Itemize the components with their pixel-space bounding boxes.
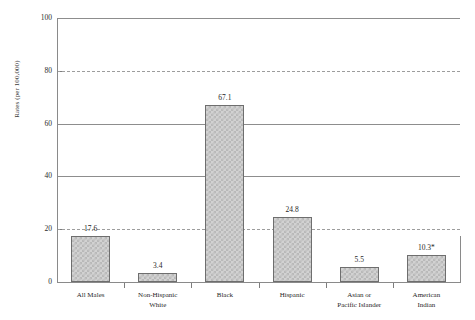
bar-value-label: 5.5 [340,255,379,264]
bar-value-label: 17.6 [71,224,110,233]
bar [340,267,379,282]
y-axis-tick-label: 40 [16,171,52,180]
category-label: Non-HispanicWhite [124,291,191,310]
bar-group: 24.8 [273,18,312,282]
x-axis-tick-mark [326,283,327,288]
chart-title [0,0,475,4]
bar-value-label: 10.3* [407,243,446,252]
x-axis-tick-mark [124,283,125,288]
bar [138,273,177,282]
category-label-line: Hispanic [259,291,326,301]
y-axis-tick: 40 [8,176,52,177]
bar [273,217,312,282]
category-label-line: Pacific Islander [326,301,393,311]
bar [205,105,244,282]
category-label-line: Black [191,291,258,301]
category-label-line: Asian or [326,291,393,301]
y-axis-tick: 0 [8,282,52,283]
y-axis-tick: 80 [8,71,52,72]
category-label: All Males [57,291,124,301]
y-axis-tick-label: 60 [16,119,52,128]
category-label-line: American [393,291,460,301]
y-axis-tick-label: 0 [16,277,52,286]
x-axis-tick-mark [259,283,260,288]
bar-group: 10.3* [407,18,446,282]
x-axis-tick-mark [191,283,192,288]
category-label-line: Non-Hispanic [124,291,191,301]
category-label: Hispanic [259,291,326,301]
bar-chart: Rates (per 100,000) 020406080100 17.63.4… [0,0,475,320]
y-axis-tick-label: 80 [16,66,52,75]
category-label: Asian orPacific Islander [326,291,393,310]
y-axis-tick: 100 [8,18,52,19]
category-label-line: Indian [393,301,460,311]
x-axis-tick-mark [393,283,394,288]
bar [71,236,110,282]
category-label-line: All Males [57,291,124,301]
y-axis-tick: 60 [8,124,52,125]
bar-value-label: 67.1 [205,93,244,102]
bar-group: 5.5 [340,18,379,282]
category-label: Black [191,291,258,301]
bar [407,255,446,282]
bar-value-label: 24.8 [273,205,312,214]
y-axis-tick-label: 20 [16,224,52,233]
y-axis-tick: 20 [8,229,52,230]
plot-area: 17.63.467.124.85.510.3* [57,18,460,282]
bar-group: 67.1 [205,18,244,282]
plot-right-edge [460,236,461,283]
bar-group: 3.4 [138,18,177,282]
category-label: AmericanIndian [393,291,460,310]
bar-group: 17.6 [71,18,110,282]
category-label-line: White [124,301,191,311]
y-axis-tick-label: 100 [16,13,52,22]
bar-value-label: 3.4 [138,261,177,270]
